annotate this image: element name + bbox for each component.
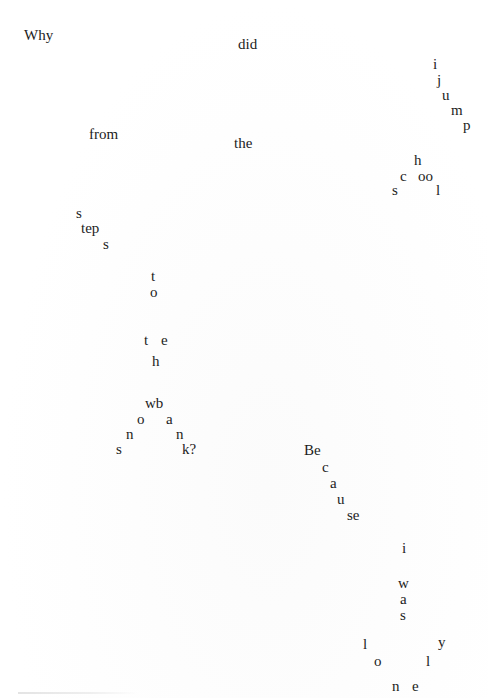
letter-u: u [442,88,450,103]
word-from: from [89,127,118,142]
letter-swan-n2: n [176,427,184,442]
letter-steps-s2: s [103,237,109,252]
cutoff-text-line [18,692,138,694]
word-did: did [238,37,257,52]
letter-swan-s: s [116,442,122,457]
letter-because-u: u [337,492,345,507]
letter-was-w: w [398,576,409,591]
letter-because-a: a [330,476,337,491]
letter-lonely-n: n [392,679,400,694]
letter-the-t: t [144,333,148,348]
letter-steps-s1: s [76,206,82,221]
letters-swan-k: k? [182,442,196,457]
letter-to-o: o [150,285,158,300]
letters-swan-wb: wb [145,396,163,411]
letters-school-oo: oo [418,169,433,184]
letter-i: i [433,57,437,72]
letter-was-s: s [400,608,406,623]
letter-school-c: c [400,169,407,184]
letter-lonely-o: o [374,654,382,669]
letter-swan-n1: n [126,427,134,442]
word-why: Why [24,28,53,43]
letter-lonely-y: y [438,635,446,650]
letter-p: p [463,118,471,133]
letter-swan-a: a [166,412,173,427]
letter-lonely-l2: l [426,654,430,669]
letter-was-a: a [400,592,407,607]
letter-because-c: c [322,460,329,475]
letters-because-se: se [347,508,360,523]
word-i: i [402,541,406,556]
letter-m: m [451,103,463,118]
letter-swan-o: o [137,412,145,427]
poem-page: Why did i j u m p from the h c oo s l s … [0,0,488,698]
letter-school-h: h [414,153,422,168]
letters-because-be: Be [304,443,321,458]
word-the: the [234,136,252,151]
letter-lonely-l1: l [363,637,367,652]
letter-to-t: t [151,269,155,284]
letters-steps-tep: tep [81,221,99,236]
letter-lonely-e: e [412,679,419,694]
letter-the-e: e [161,333,168,348]
letter-the-h: h [152,354,160,369]
letter-j: j [437,73,441,88]
letter-school-s: s [392,183,398,198]
letter-school-l: l [436,183,440,198]
